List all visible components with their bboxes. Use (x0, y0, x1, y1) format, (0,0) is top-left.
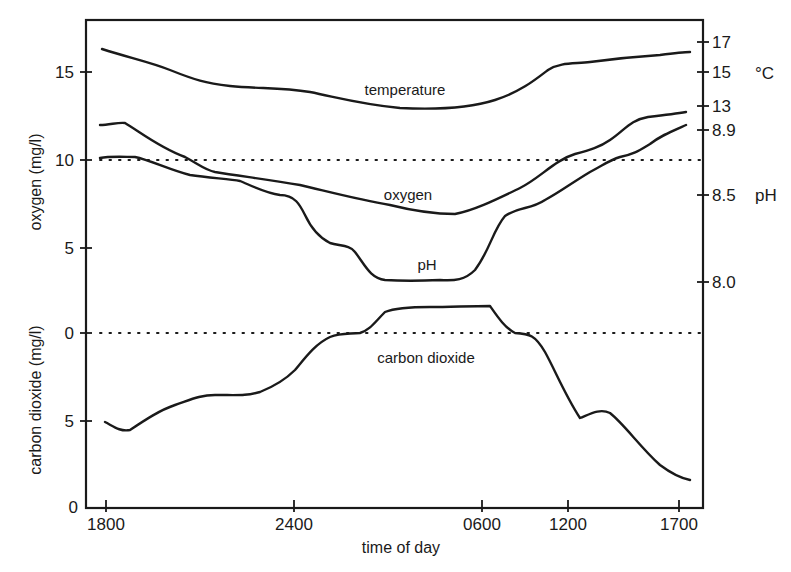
temperature-unit-label: °C (755, 64, 774, 83)
co2-label: carbon dioxide (377, 349, 475, 366)
svg-text:5: 5 (65, 239, 74, 258)
svg-text:8.0: 8.0 (712, 273, 736, 292)
svg-text:1200: 1200 (549, 515, 587, 534)
ph-label: pH (417, 256, 436, 273)
svg-text:10: 10 (55, 151, 74, 170)
svg-text:15: 15 (55, 63, 74, 82)
x-axis-tick-labels: 1800 2400 0600 1200 1700 (87, 515, 698, 534)
svg-text:8.5: 8.5 (712, 186, 736, 205)
right-axis-tick-labels: 17 15 13 8.9 8.5 8.0 (712, 33, 736, 292)
ph-unit-label: pH (755, 186, 777, 205)
svg-text:1800: 1800 (87, 515, 125, 534)
svg-text:0600: 0600 (463, 515, 501, 534)
svg-text:13: 13 (712, 97, 731, 116)
co2-axis-title: carbon dioxide (mg/l) (27, 325, 44, 474)
temperature-label: temperature (365, 81, 446, 98)
svg-text:8.9: 8.9 (712, 121, 736, 140)
temperature-curve (102, 49, 690, 109)
left-axis-tick-labels: 15 10 5 0 5 0 (55, 63, 78, 517)
oxygen-axis-title: oxygen (mg/l) (27, 134, 44, 231)
svg-text:0: 0 (65, 324, 74, 343)
x-axis-title: time of day (362, 539, 440, 556)
svg-text:5: 5 (65, 412, 74, 431)
diel-cycle-chart: 15 10 5 0 5 0 oxygen (mg/l) carbon dioxi… (0, 0, 791, 572)
svg-text:0: 0 (69, 498, 78, 517)
svg-text:2400: 2400 (275, 515, 313, 534)
svg-text:15: 15 (712, 63, 731, 82)
co2-curve (105, 306, 690, 480)
x-axis-ticks (106, 500, 679, 512)
svg-text:1700: 1700 (660, 515, 698, 534)
oxygen-label: oxygen (384, 186, 432, 203)
svg-text:17: 17 (712, 33, 731, 52)
